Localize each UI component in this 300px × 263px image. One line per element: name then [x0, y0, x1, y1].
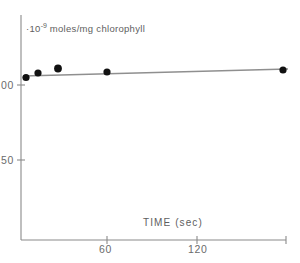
- data-point: [103, 68, 110, 75]
- y-axis-caption: ·10-9 moles/mg chlorophyll: [26, 22, 145, 34]
- x-tick-label-120: 120: [188, 244, 208, 255]
- y-axis-caption-prefix: ·10: [26, 23, 41, 34]
- data-point: [279, 66, 286, 73]
- data-point: [54, 65, 62, 73]
- y-axis-caption-suffix: moles/mg chlorophyll: [47, 23, 145, 34]
- x-axis-title: TIME (sec): [143, 218, 203, 228]
- data-point: [34, 69, 41, 76]
- x-tick-label-60: 60: [99, 244, 112, 255]
- chart-figure: ·10-9 moles/mg chlorophyll 00 50 TIME (s…: [0, 0, 300, 263]
- y-tick-label-50: 50: [1, 155, 14, 166]
- data-point: [22, 74, 29, 81]
- trend-line: [23, 69, 288, 76]
- y-tick-label-100: 00: [1, 80, 14, 91]
